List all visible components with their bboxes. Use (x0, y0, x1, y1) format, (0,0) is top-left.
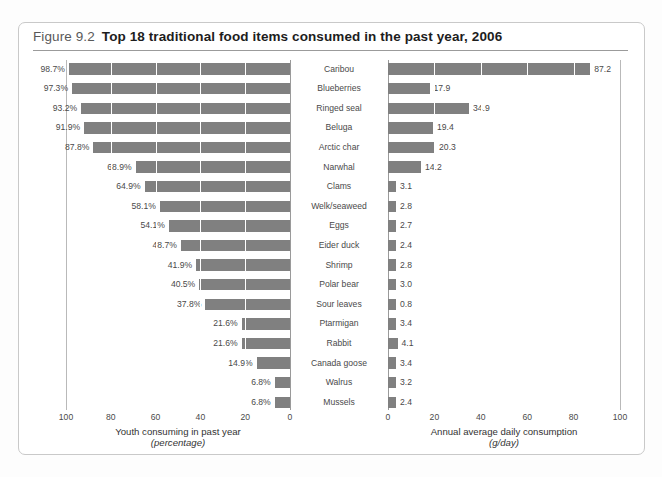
bar-right (388, 63, 590, 75)
bar-left (257, 357, 290, 369)
left-axis-caption: Youth consuming in past year(percentage) (28, 426, 328, 448)
chart-row: 87.8%Arctic char20.3 (0, 139, 662, 159)
bar-right (388, 357, 396, 369)
category-label: Narwhal (296, 162, 382, 174)
category-label: Rabbit (296, 338, 382, 350)
bar-value-label-right: 2.4 (400, 397, 412, 409)
chart-row: 68.9%Narwhal14.2 (0, 158, 662, 178)
bar-value-label-right: 2.8 (400, 201, 412, 213)
bar-value-label-right: 2.4 (400, 240, 412, 252)
chart-row: 48.7%Eider duck2.4 (0, 237, 662, 257)
bar-value-label-left: 58.1% (120, 201, 156, 213)
bar-right (388, 181, 396, 193)
bar-left (181, 240, 290, 252)
bar-value-label-left: 93.2% (41, 103, 77, 115)
chart-row: 6.8%Walrus3.2 (0, 374, 662, 394)
gridline-right-overlay (481, 60, 482, 413)
bar-left (69, 63, 290, 75)
bar-right (388, 220, 396, 232)
category-label: Arctic char (296, 142, 382, 154)
bar-value-label-left: 68.9% (96, 162, 132, 174)
bar-left (145, 181, 290, 193)
category-label: Polar bear (296, 279, 382, 291)
bar-right (388, 103, 469, 115)
axis-tick-left: 40 (185, 412, 215, 422)
bar-value-label-left: 14.9% (217, 358, 253, 370)
bar-left (275, 397, 290, 409)
category-label: Canada goose (296, 358, 382, 370)
right-axis-caption-line2: (g/day) (354, 437, 654, 448)
bar-value-label-right: 3.1 (400, 181, 412, 193)
category-label: Clams (296, 181, 382, 193)
gridline-right-overlay (527, 60, 528, 413)
bar-value-label-right: 20.3 (439, 142, 456, 154)
bar-value-label-left: 87.8% (53, 142, 89, 154)
bar-value-label-right: 17.9 (434, 83, 451, 95)
bar-value-label-right: 3.4 (400, 358, 412, 370)
gridline-left-overlay (200, 60, 201, 413)
bar-right (388, 142, 435, 154)
chart-row: 54.1%Eggs2.7 (0, 217, 662, 237)
category-label: Caribou (296, 64, 382, 76)
bar-left (93, 142, 290, 154)
bar-right (388, 122, 433, 134)
axis-tick-left: 20 (230, 412, 260, 422)
bar-value-label-left: 21.6% (202, 338, 238, 350)
gridline-left-overlay (111, 60, 112, 413)
bar-right (388, 377, 396, 389)
chart-row: 58.1%Welk/seaweed2.8 (0, 197, 662, 217)
chart-row: 21.6%Rabbit4.1 (0, 335, 662, 355)
bar-left (72, 83, 290, 95)
chart-row: 98.7%Caribou87.2 (0, 60, 662, 80)
bar-value-label-left: 40.5% (159, 279, 195, 291)
left-axis-caption-line2: (percentage) (28, 437, 328, 448)
bar-value-label-left: 41.9% (156, 260, 192, 272)
bar-value-label-left: 54.1% (129, 220, 165, 232)
axis-tick-right: 60 (512, 412, 542, 422)
chart-row: 64.9%Clams3.1 (0, 178, 662, 198)
category-label: Welk/seaweed (296, 201, 382, 213)
bar-value-label-right: 14.2 (425, 162, 442, 174)
bar-value-label-left: 91.9% (44, 122, 80, 134)
chart-row: 40.5%Polar bear3.0 (0, 276, 662, 296)
bar-value-label-right: 3.0 (400, 279, 412, 291)
axis-tick-right: 20 (419, 412, 449, 422)
bar-left (84, 122, 290, 134)
bar-value-label-left: 37.8% (165, 299, 201, 311)
chart-row: 21.6%Ptarmigan3.4 (0, 315, 662, 335)
gridline-left-overlay (245, 60, 246, 413)
bar-value-label-right: 3.4 (400, 318, 412, 330)
right-axis-caption-line1: Annual average daily consumption (354, 426, 654, 437)
axis-tick-left: 0 (275, 412, 305, 422)
axis-tick-left: 60 (141, 412, 171, 422)
bar-value-label-right: 19.4 (437, 122, 454, 134)
left-axis-caption-line1: Youth consuming in past year (28, 426, 328, 437)
chart-row: 91.9%Beluga19.4 (0, 119, 662, 139)
right-axis-caption: Annual average daily consumption(g/day) (354, 426, 654, 448)
bar-right (388, 161, 421, 173)
axis-tick-right: 0 (373, 412, 403, 422)
bar-right (388, 397, 396, 409)
bar-right (388, 338, 398, 350)
chart-row: 14.9%Canada goose3.4 (0, 354, 662, 374)
bar-right (388, 259, 396, 271)
bar-left (160, 201, 290, 213)
category-label: Beluga (296, 122, 382, 134)
axis-tick-left: 100 (51, 412, 81, 422)
bar-value-label-right: 0.8 (400, 299, 412, 311)
bar-value-label-left: 98.7% (29, 64, 65, 76)
bar-left (81, 103, 290, 115)
gridline-right-overlay (574, 60, 575, 413)
bar-right (388, 240, 396, 252)
bar-value-label-left: 6.8% (235, 397, 271, 409)
gridline-right-overlay (434, 60, 435, 413)
bar-right (388, 299, 396, 311)
bar-value-label-right: 2.8 (400, 260, 412, 272)
axis-tick-right: 80 (559, 412, 589, 422)
chart-row: 93.2%Ringed seal34.9 (0, 99, 662, 119)
bar-left (196, 259, 290, 271)
gridline-left-overlay (156, 60, 157, 413)
bar-value-label-right: 3.2 (400, 377, 412, 389)
bar-left (242, 338, 290, 350)
figure-page: Figure 9.2Top 18 traditional food items … (0, 0, 662, 477)
